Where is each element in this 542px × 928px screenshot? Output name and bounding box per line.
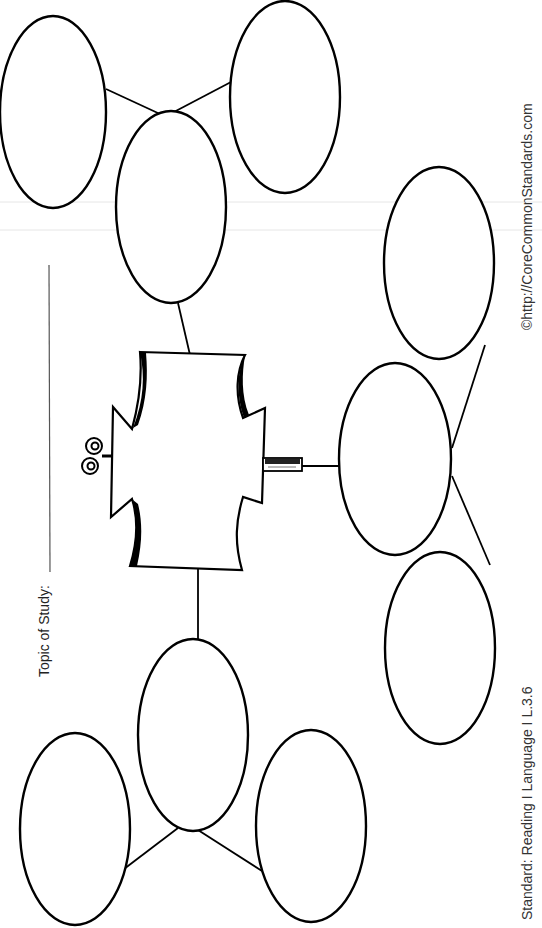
leaf-top-right-bubble[interactable] [230,1,340,193]
topic-of-study-label: Topic of Study: [36,585,52,677]
connector-branch-right-to-leaf-right-lower [452,476,490,565]
connector-branch-bottom-to-leaf-bottom-left [124,828,178,869]
connector-branch-right-to-leaf-right-upper [452,345,485,448]
connector-branch-top-to-leaf-top-left [106,89,160,114]
concept-map-diagram [0,0,542,928]
leaf-right-upper-bubble[interactable] [384,167,494,359]
leaf-right-lower-bubble[interactable] [385,552,495,744]
leaf-top-left-bubble[interactable] [0,16,106,208]
topic-underline [49,265,50,572]
center-plaque[interactable] [82,352,302,570]
leaf-bottom-left-bubble[interactable] [20,733,130,925]
copyright-text: ©http://CoreCommonStandards.com [519,103,535,330]
curl-ornament-icon [82,438,112,474]
branch-bottom-bubble[interactable] [138,639,248,831]
standard-text: Standard: Reading I Language I L.3.6 [519,686,535,920]
connector-branch-top-to-leaf-top-right [172,82,231,113]
peg-icon [263,458,302,471]
branch-right-bubble[interactable] [339,363,451,555]
leaf-bottom-right-bubble[interactable] [256,730,366,922]
connector-center-to-branch-top [178,303,190,355]
connector-branch-bottom-to-leaf-bottom-right [198,830,262,871]
branch-top-bubble[interactable] [116,111,226,303]
